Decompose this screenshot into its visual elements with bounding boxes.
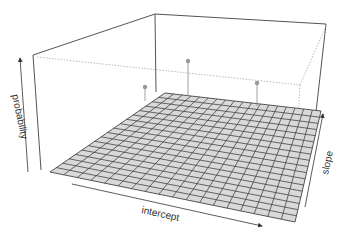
data-point bbox=[255, 81, 259, 85]
probability-surface bbox=[50, 93, 321, 222]
y-axis-label: slope bbox=[319, 149, 335, 175]
data-point bbox=[186, 59, 190, 63]
z-axis-label: probability bbox=[10, 93, 30, 140]
3d-surface-plot: probability intercept slope bbox=[0, 0, 338, 238]
data-point bbox=[143, 85, 147, 89]
